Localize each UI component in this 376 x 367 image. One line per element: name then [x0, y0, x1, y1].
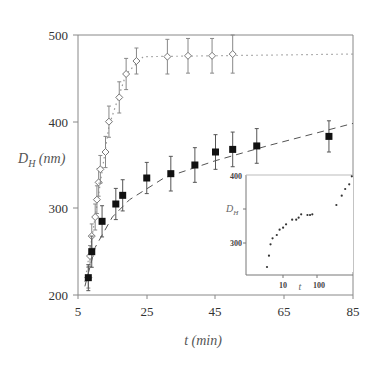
- y-axis-title-main: D: [17, 151, 28, 166]
- data-point-square: [112, 188, 119, 219]
- inset-x-tick-label: 10: [279, 281, 287, 290]
- inset-point: [341, 195, 343, 197]
- data-point-square: [229, 132, 236, 167]
- x-tick-label: 85: [347, 304, 360, 319]
- inset-point: [266, 266, 268, 268]
- data-point-diamond: [133, 48, 140, 74]
- inset-point: [278, 229, 280, 231]
- data-point-diamond: [93, 186, 100, 214]
- inset-point: [311, 213, 313, 215]
- inset-x-tick-label: 100: [313, 281, 325, 290]
- data-point-diamond: [164, 39, 171, 74]
- inset-point: [309, 214, 311, 216]
- y-axis-title: DH (nm): [17, 151, 66, 169]
- inset-y-tick-label: 300: [230, 239, 242, 248]
- x-tick-label: 5: [75, 304, 82, 319]
- inset-y-tick-label: 400: [230, 172, 242, 181]
- data-point-diamond: [92, 204, 99, 230]
- inset-y-title-sub: H: [232, 209, 239, 217]
- inset-point: [291, 219, 293, 221]
- data-point-diamond: [229, 35, 236, 73]
- inset-point: [300, 213, 302, 215]
- inset-point: [269, 243, 271, 245]
- y-tick-label: 400: [49, 115, 69, 130]
- y-tick-label: 200: [49, 288, 69, 303]
- data-point-square: [253, 129, 260, 164]
- inset-point: [351, 175, 353, 177]
- inset-x-title: t: [299, 281, 302, 292]
- data-point-square: [85, 265, 92, 291]
- x-axis: 5 25 45 65 85: [75, 295, 360, 319]
- inset-point: [306, 214, 308, 216]
- x-tick-label: 25: [141, 304, 154, 319]
- inset-point: [295, 219, 297, 221]
- inset-point: [298, 217, 300, 219]
- data-point-square: [191, 148, 198, 183]
- data-point-square: [88, 236, 95, 267]
- data-point-diamond: [209, 38, 216, 73]
- chart-canvas: 500 400 300 200 5 25 45 65 85 t (min) DH…: [0, 0, 376, 367]
- y-tick-label: 300: [49, 201, 69, 216]
- y-tick-label: 500: [49, 28, 69, 43]
- data-point-square: [143, 162, 150, 193]
- data-point-square: [325, 121, 332, 152]
- inset-point: [335, 204, 337, 206]
- inset-y-title: DH: [225, 203, 239, 217]
- inset-point: [268, 255, 270, 257]
- data-point-square: [212, 135, 219, 170]
- inset-point: [282, 227, 284, 229]
- data-point-diamond: [116, 82, 123, 113]
- x-tick-label: 45: [209, 304, 222, 319]
- data-point-square: [167, 156, 174, 191]
- data-point-diamond: [185, 38, 192, 73]
- data-point-diamond: [123, 58, 130, 89]
- inset-point: [285, 223, 287, 225]
- x-axis-title: t (min): [184, 333, 222, 349]
- x-tick-label: 65: [278, 304, 291, 319]
- y-axis-title-unit: (nm): [35, 151, 65, 167]
- inset-point: [344, 188, 346, 190]
- inset-point: [348, 183, 350, 185]
- inset-point: [276, 234, 278, 236]
- inset-chart: 400 300 10 100 t DH: [225, 172, 353, 292]
- data-point-square: [99, 206, 106, 237]
- data-point-diamond: [105, 106, 112, 137]
- data-point-square: [119, 180, 126, 211]
- inset-point: [271, 237, 273, 239]
